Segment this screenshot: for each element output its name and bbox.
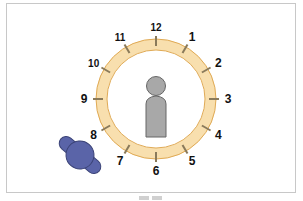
hour-label: 11: [115, 32, 126, 43]
hour-label: 4: [215, 128, 222, 142]
person-icon: [146, 77, 166, 138]
hour-label: 8: [90, 128, 97, 142]
hour-label: 2: [215, 56, 222, 70]
hour-label: 7: [117, 154, 124, 168]
hour-label: 6: [153, 164, 160, 178]
hour-label: 12: [150, 22, 162, 33]
hour-label: 10: [88, 58, 100, 69]
blue-object-icon: [52, 128, 108, 182]
hour-label: 9: [81, 92, 88, 106]
footer-marks: [139, 196, 163, 201]
clock-diagram: 121234567891011: [0, 0, 303, 201]
hour-label: 1: [189, 30, 196, 44]
hour-label: 3: [225, 92, 232, 106]
hour-label: 5: [189, 154, 196, 168]
